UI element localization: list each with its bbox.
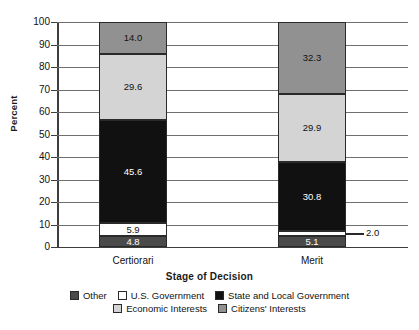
- y-tick-30: [51, 180, 57, 181]
- bar-segment-u-s-government[interactable]: 5.9: [99, 223, 167, 236]
- bar-merit[interactable]: 5.130.829.932.3: [278, 22, 346, 247]
- legend-row-1: OtherU.S. GovernmentState and Local Gove…: [0, 289, 419, 302]
- y-tick-40: [51, 157, 57, 158]
- bar-segment-state-and-local-government[interactable]: 30.8: [278, 162, 346, 231]
- legend-item-u-s-government[interactable]: U.S. Government: [118, 291, 204, 301]
- bar-value-label: 14.0: [124, 33, 143, 43]
- legend-row-2: Economic InterestsCitizens' Interests: [0, 302, 419, 315]
- legend-item-citizens-interests[interactable]: Citizens' Interests: [218, 304, 306, 314]
- legend-label: Other: [83, 291, 107, 301]
- bar-value-label: 5.1: [305, 237, 318, 247]
- legend-swatch-icon: [70, 291, 79, 300]
- bar-segment-state-and-local-government[interactable]: 45.6: [99, 120, 167, 223]
- bar-value-label-external: 2.0: [366, 229, 379, 239]
- bar-segment-citizens-interests[interactable]: 32.3: [278, 22, 346, 95]
- gridline-0: [57, 247, 408, 248]
- legend-label: Economic Interests: [126, 304, 207, 314]
- bar-segment-other[interactable]: 5.1: [278, 236, 346, 247]
- y-tick-60: [51, 112, 57, 113]
- y-tick-label-90: 90: [17, 40, 50, 50]
- y-tick-0: [51, 247, 57, 248]
- y-tick-label-20: 20: [17, 197, 50, 207]
- legend-label: U.S. Government: [131, 291, 204, 301]
- callout-leader-line: [346, 233, 364, 234]
- legend-swatch-icon: [118, 291, 127, 300]
- y-tick-label-40: 40: [17, 152, 50, 162]
- y-tick-70: [51, 90, 57, 91]
- legend-label: Citizens' Interests: [231, 304, 306, 314]
- bar-value-label: 45.6: [124, 167, 143, 177]
- legend-swatch-icon: [113, 304, 122, 313]
- category-label-certiorari: Certiorari: [112, 255, 153, 266]
- y-tick-label-30: 30: [17, 175, 50, 185]
- y-tick-label-0: 0: [17, 242, 50, 252]
- stacked-bar-chart: Percent 4.85.945.629.614.05.130.829.932.…: [0, 0, 419, 330]
- y-tick-90: [51, 45, 57, 46]
- legend-swatch-icon: [215, 291, 224, 300]
- y-tick-label-60: 60: [17, 107, 50, 117]
- category-label-merit: Merit: [301, 255, 323, 266]
- y-tick-label-50: 50: [17, 130, 50, 140]
- bar-value-label: 5.9: [126, 225, 139, 235]
- bar-certiorari[interactable]: 4.85.945.629.614.0: [99, 22, 167, 247]
- legend-item-state-and-local-government[interactable]: State and Local Government: [215, 291, 349, 301]
- y-tick-20: [51, 202, 57, 203]
- y-tick-label-100: 100: [17, 17, 50, 27]
- legend-item-other[interactable]: Other: [70, 291, 107, 301]
- bar-segment-citizens-interests[interactable]: 14.0: [99, 22, 167, 54]
- bar-segment-u-s-government[interactable]: [278, 231, 346, 236]
- legend-item-economic-interests[interactable]: Economic Interests: [113, 304, 207, 314]
- y-tick-label-70: 70: [17, 85, 50, 95]
- bar-segment-other[interactable]: 4.8: [99, 236, 167, 247]
- bar-segment-economic-interests[interactable]: 29.9: [278, 94, 346, 161]
- x-axis-title: Stage of Decision: [0, 271, 419, 282]
- y-tick-50: [51, 135, 57, 136]
- bar-value-label: 32.3: [303, 53, 322, 63]
- y-tick-label-80: 80: [17, 62, 50, 72]
- bar-segment-economic-interests[interactable]: 29.6: [99, 54, 167, 121]
- bar-value-label: 30.8: [303, 192, 322, 202]
- y-tick-100: [51, 22, 57, 23]
- y-tick-label-10: 10: [17, 220, 50, 230]
- chart-legend: OtherU.S. GovernmentState and Local Gove…: [0, 289, 419, 315]
- y-tick-10: [51, 225, 57, 226]
- bar-value-label: 4.8: [126, 237, 139, 247]
- bar-value-label: 29.6: [124, 82, 143, 92]
- plot-area: 4.85.945.629.614.05.130.829.932.3 2.0: [57, 22, 408, 247]
- legend-swatch-icon: [218, 304, 227, 313]
- bar-value-label: 29.9: [303, 123, 322, 133]
- y-tick-80: [51, 67, 57, 68]
- legend-label: State and Local Government: [228, 291, 349, 301]
